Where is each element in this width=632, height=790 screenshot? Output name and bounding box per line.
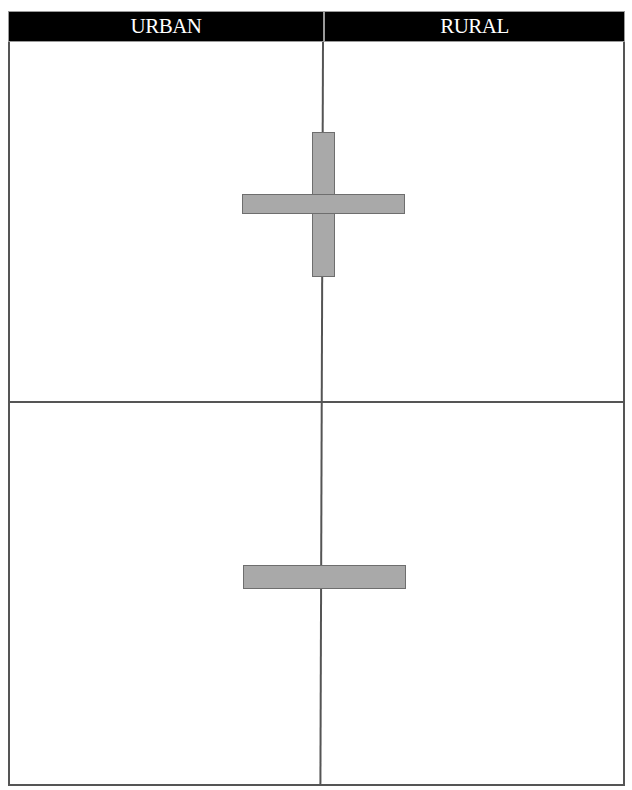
column-header-urban: URBAN [9, 12, 325, 41]
minus-sign-icon [243, 565, 406, 589]
column-header-bar: URBAN RURAL [8, 11, 625, 42]
two-by-two-chart: URBAN RURAL [8, 11, 625, 786]
bottom-border [8, 784, 625, 786]
middle-horizontal-divider [8, 401, 625, 403]
plus-center-fill [313, 195, 334, 213]
column-header-rural: RURAL [325, 12, 624, 41]
left-border [8, 42, 10, 786]
right-border [623, 42, 625, 786]
